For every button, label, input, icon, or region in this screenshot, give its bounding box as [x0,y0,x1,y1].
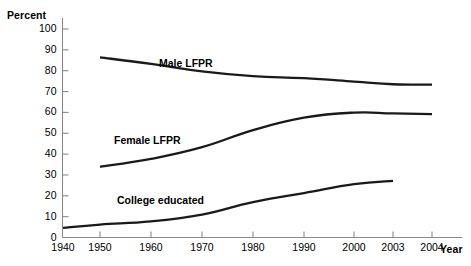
x-axis-tick-label: 1990 [284,241,324,253]
y-axis-tick-label: 20 [27,189,57,201]
x-axis-tick-label: 2003 [373,241,413,253]
x-axis-tick-label: 2000 [334,241,374,253]
y-axis-tick-label: 50 [27,126,57,138]
x-axis-tick-label: 1940 [43,241,83,253]
series-label-male-lfpr: Male LFPR [159,57,213,69]
y-axis-tick-label: 80 [27,64,57,76]
x-axis-tick-label: 1970 [182,241,222,253]
series-line-male-lfpr [100,57,432,84]
x-axis-tick-label: 1960 [131,241,171,253]
y-axis-tick-label: 30 [27,168,57,180]
y-axis-tick-label: 70 [27,85,57,97]
series-line-college-educated [63,181,393,228]
series-label-female-lfpr: Female LFPR [114,134,181,146]
y-axis-tick-label: 90 [27,43,57,55]
x-axis-tick-label: 1980 [233,241,273,253]
x-axis-tick-label: 2004 [412,241,452,253]
y-axis-tick-label: 10 [27,210,57,222]
plot-area [0,0,471,266]
y-axis-tick-label: 40 [27,147,57,159]
y-axis-tick-label: 60 [27,105,57,117]
series-label-college-educated: College educated [117,194,204,206]
y-axis-ticks [63,29,69,238]
x-axis-ticks [100,232,432,238]
y-axis-tick-label: 100 [27,22,57,34]
chart-container: Percent Year 0102030405060708090100 1940… [0,0,471,266]
x-axis-tick-label: 1950 [80,241,120,253]
